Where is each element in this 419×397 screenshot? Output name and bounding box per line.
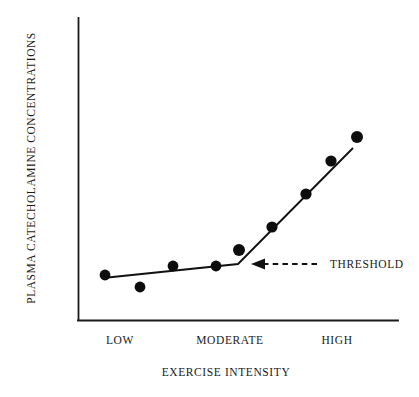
data-point [100, 270, 111, 281]
x-tick-label-moderate: MODERATE [196, 334, 263, 346]
x-axis-title: EXERCISE INTENSITY [162, 366, 291, 378]
chart-figure: THRESHOLD LOW MODERATE HIGH EXERCISE INT… [0, 0, 419, 397]
x-tick-label-low: LOW [106, 334, 134, 346]
data-point [300, 188, 311, 199]
data-point [351, 131, 363, 143]
data-point [135, 282, 146, 293]
data-point [233, 244, 245, 256]
data-point [211, 261, 222, 272]
x-tick-label-high: HIGH [321, 334, 352, 346]
chart-canvas: THRESHOLD LOW MODERATE HIGH EXERCISE INT… [0, 0, 419, 397]
data-point [168, 261, 179, 272]
data-point [266, 221, 277, 232]
data-point [325, 155, 336, 166]
threshold-label: THRESHOLD [330, 258, 404, 270]
y-axis-title: PLASMA CATECHOLAMINE CONCENTRATIONS [25, 32, 37, 304]
